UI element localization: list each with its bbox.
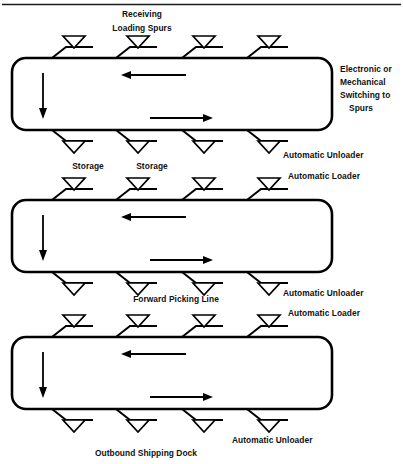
outbound-loop-track — [12, 337, 332, 409]
receiving-top-spurs — [52, 36, 288, 58]
spur-top-4 — [247, 178, 288, 200]
spur-triangle-icon — [63, 283, 85, 295]
receiving-loop-track — [12, 58, 332, 130]
label-storage-right: Storage — [136, 161, 168, 171]
spur-triangle-icon — [258, 420, 280, 432]
label-automatic-loader-1: Automatic Loader — [288, 171, 361, 181]
forward-picking-loop-track — [12, 200, 332, 272]
forward-picking-section — [12, 178, 332, 295]
label-loading-spurs: Loading Spurs — [112, 23, 172, 33]
spur-triangle-icon — [63, 420, 85, 432]
label-automatic-unloader-3: Automatic Unloader — [232, 435, 313, 445]
spur-triangle-icon — [258, 283, 280, 295]
label-switching-line3: Switching to — [340, 90, 390, 100]
spur-top-2 — [116, 315, 157, 337]
spur-top-3 — [182, 178, 223, 200]
spur-bottom-2 — [116, 272, 157, 295]
label-storage-left: Storage — [72, 161, 104, 171]
spur-triangle-icon — [127, 141, 149, 153]
label-automatic-loader-2: Automatic Loader — [288, 308, 361, 318]
label-outbound-shipping-dock: Outbound Shipping Dock — [95, 448, 197, 458]
spur-triangle-icon — [63, 141, 85, 153]
spur-top-3 — [182, 315, 223, 337]
spur-bottom-1 — [52, 272, 93, 295]
spur-bottom-4 — [247, 409, 288, 432]
spur-bottom-4 — [247, 272, 288, 295]
spur-top-1 — [52, 36, 93, 58]
spur-top-2 — [116, 36, 157, 58]
outbound-top-spurs — [52, 315, 288, 337]
outbound-section — [12, 315, 332, 432]
spur-bottom-4 — [247, 130, 288, 153]
spur-bottom-3 — [182, 130, 223, 153]
spur-bottom-3 — [182, 409, 223, 432]
spur-top-1 — [52, 178, 93, 200]
spur-top-2 — [116, 178, 157, 200]
spur-top-3 — [182, 36, 223, 58]
receiving-section — [12, 36, 332, 153]
spur-triangle-icon — [193, 420, 215, 432]
spur-top-4 — [247, 36, 288, 58]
spur-triangle-icon — [258, 141, 280, 153]
spur-bottom-2 — [116, 409, 157, 432]
spur-triangle-icon — [193, 141, 215, 153]
receiving-bottom-spurs — [52, 130, 288, 153]
label-forward-picking-line: Forward Picking Line — [133, 294, 219, 304]
forward-picking-top-spurs — [52, 178, 288, 200]
spur-top-4 — [247, 315, 288, 337]
spur-bottom-1 — [52, 130, 93, 153]
label-automatic-unloader-2: Automatic Unloader — [283, 288, 364, 298]
label-switching-line2: Mechanical — [340, 77, 386, 87]
spur-triangle-icon — [127, 420, 149, 432]
label-switching-line1: Electronic or — [340, 64, 393, 74]
outbound-bottom-spurs — [52, 409, 288, 432]
label-receiving: Receiving — [122, 9, 162, 19]
label-automatic-unloader-1: Automatic Unloader — [283, 150, 364, 160]
conveyor-loop-diagram: Receiving Loading Spurs Electronic or Me… — [0, 0, 403, 464]
spur-bottom-1 — [52, 409, 93, 432]
spur-bottom-2 — [116, 130, 157, 153]
forward-picking-bottom-spurs — [52, 272, 288, 295]
spur-top-1 — [52, 315, 93, 337]
spur-bottom-3 — [182, 272, 223, 295]
label-switching-line4: Spurs — [349, 103, 373, 113]
diagram-canvas: Receiving Loading Spurs Electronic or Me… — [0, 0, 403, 464]
